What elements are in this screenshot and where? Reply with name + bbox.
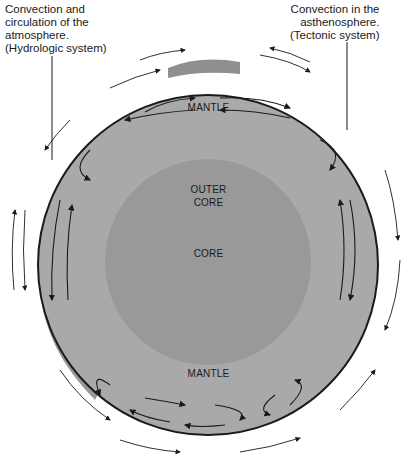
atmosphere-arrow — [45, 120, 70, 150]
mantle-label-bottom: MANTLE — [0, 368, 417, 379]
atmosphere-arrow — [140, 50, 185, 60]
atmosphere-arrow — [385, 260, 400, 330]
earth-diagram — [0, 0, 417, 466]
atmosphere-arrow — [110, 70, 160, 88]
crust-patch-top — [168, 60, 240, 78]
core-label: CORE — [0, 248, 417, 259]
atmosphere-arrow — [240, 438, 300, 452]
outer-core-label-line: OUTER — [0, 183, 417, 196]
mantle-label-top: MANTLE — [0, 102, 417, 113]
outer-core-label-line: CORE — [0, 196, 417, 209]
atmosphere-arrow — [120, 440, 180, 452]
atmosphere-arrow — [260, 55, 310, 72]
atmosphere-arrow — [270, 48, 310, 62]
outer-core-label: OUTER CORE — [0, 183, 417, 209]
